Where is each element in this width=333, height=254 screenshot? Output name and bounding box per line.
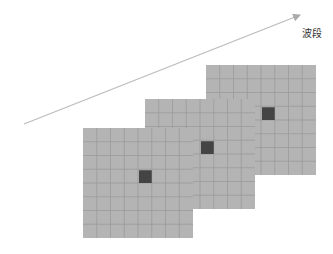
grid-layer-band-1 [83,128,193,238]
band-layers [83,65,316,238]
band-stack-diagram [0,0,333,254]
band-axis-label: 波段 [302,25,322,40]
highlighted-pixel [139,170,152,183]
highlighted-pixel [201,141,214,154]
highlighted-pixel [262,107,275,120]
